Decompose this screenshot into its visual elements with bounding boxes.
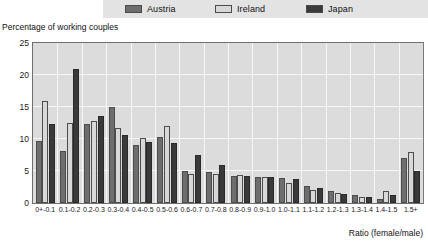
bar-group — [109, 43, 128, 203]
bar-japan-6 — [195, 155, 201, 203]
bar-japan-8 — [244, 176, 250, 203]
gridline-x-3 — [106, 43, 107, 203]
gridline-x-11 — [301, 43, 302, 203]
gridline-x-13 — [350, 43, 351, 203]
bar-austria-7 — [206, 172, 212, 203]
bar-group — [304, 43, 323, 203]
bar-austria-1 — [60, 151, 66, 203]
x-tick-label-15: 1.5+ — [399, 206, 423, 214]
bar-austria-12 — [328, 191, 334, 203]
x-axis-title: Ratio (female/male) — [349, 228, 423, 238]
x-tick-label-3: 0.3-0.4 — [106, 206, 130, 214]
gridline-x-10 — [277, 43, 278, 203]
x-tick-label-2: 0.2-0.3 — [82, 206, 106, 214]
legend-swatch-austria — [125, 5, 142, 13]
bar-ireland-11 — [310, 190, 316, 203]
x-tick-label-12: 1.2-1.3 — [326, 206, 350, 214]
x-tick-label-7: 0.7-0.8 — [204, 206, 228, 214]
bar-ireland-3 — [115, 128, 121, 203]
bar-group — [133, 43, 152, 203]
bar-japan-4 — [146, 142, 152, 203]
y-tick-label-10: 10 — [3, 135, 29, 144]
bar-japan-14 — [390, 195, 396, 203]
gridline-x-7 — [204, 43, 205, 203]
x-axis-line — [32, 203, 424, 204]
bar-austria-15 — [401, 158, 407, 203]
gridline-x-4 — [131, 43, 132, 203]
bar-group — [182, 43, 201, 203]
bar-austria-3 — [109, 107, 115, 203]
bar-group — [231, 43, 250, 203]
bar-ireland-10 — [286, 183, 292, 203]
bar-ireland-8 — [237, 175, 243, 203]
bar-japan-10 — [293, 179, 299, 203]
plot-top-rule — [33, 42, 424, 43]
gridline-x-12 — [326, 43, 327, 203]
legend-label-austria: Austria — [147, 5, 176, 14]
bar-group — [401, 43, 420, 203]
bar-austria-6 — [182, 171, 188, 203]
bar-group — [157, 43, 176, 203]
x-axis-ticks: 0+-0.10.1-0.20.2-0.30.3-0.40.4-0.50.5-0.… — [33, 206, 423, 218]
bar-ireland-1 — [67, 123, 73, 203]
y-tick-label-25: 25 — [3, 39, 29, 48]
bar-group — [36, 43, 55, 203]
legend-label-ireland: Ireland — [237, 5, 265, 14]
x-tick-label-14: 1.4-1.5 — [374, 206, 398, 214]
x-tick-label-8: 0.8-0.9 — [228, 206, 252, 214]
bar-ireland-2 — [91, 121, 97, 203]
bar-japan-15 — [414, 171, 420, 203]
gridline-x-9 — [252, 43, 253, 203]
gridline-x-8 — [228, 43, 229, 203]
gridline-x-2 — [82, 43, 83, 203]
x-tick-label-13: 1.3-1.4 — [350, 206, 374, 214]
bar-group — [255, 43, 274, 203]
bar-japan-3 — [122, 135, 128, 203]
bar-austria-2 — [84, 124, 90, 203]
bar-ireland-14 — [383, 191, 389, 203]
x-tick-label-6: 0.6-0.7 — [179, 206, 203, 214]
bar-austria-4 — [133, 145, 139, 203]
legend-label-japan: Japan — [328, 5, 353, 14]
y-axis-ticks: 0510152025 — [0, 43, 29, 203]
bar-japan-9 — [268, 177, 274, 203]
bar-group — [206, 43, 225, 203]
bar-ireland-15 — [408, 152, 414, 203]
bar-group — [352, 43, 371, 203]
bar-japan-2 — [98, 116, 104, 203]
y-tick-label-0: 0 — [3, 199, 29, 208]
bar-ireland-9 — [262, 177, 268, 203]
gridline-x-1 — [57, 43, 58, 203]
plot-area — [33, 43, 424, 203]
y-tick-label-20: 20 — [3, 71, 29, 80]
bar-ireland-0 — [42, 101, 48, 203]
bar-ireland-6 — [188, 174, 194, 203]
bar-austria-8 — [231, 176, 237, 203]
x-tick-label-10: 1.0-1.1 — [277, 206, 301, 214]
y-tick-label-15: 15 — [3, 103, 29, 112]
bar-austria-5 — [157, 137, 163, 203]
chart-figure: Austria Ireland Japan Percentage of work… — [0, 0, 428, 244]
bar-japan-5 — [171, 143, 177, 203]
legend-item-austria: Austria — [125, 0, 176, 18]
chart-legend: Austria Ireland Japan — [103, 0, 428, 18]
x-tick-label-4: 0.4-0.5 — [131, 206, 155, 214]
legend-swatch-japan — [306, 5, 323, 13]
y-tick-label-5: 5 — [3, 167, 29, 176]
x-tick-label-5: 0.5-0.6 — [155, 206, 179, 214]
bar-ireland-5 — [164, 126, 170, 203]
bar-group — [84, 43, 103, 203]
bar-austria-0 — [36, 141, 42, 203]
bar-japan-7 — [219, 165, 225, 203]
bar-ireland-7 — [213, 174, 219, 203]
legend-item-japan: Japan — [306, 0, 353, 18]
gridline-x-15 — [399, 43, 400, 203]
gridline-x-14 — [374, 43, 375, 203]
bar-japan-0 — [49, 124, 55, 203]
bar-group — [328, 43, 347, 203]
bar-group — [279, 43, 298, 203]
bar-japan-1 — [73, 69, 79, 203]
bar-ireland-4 — [140, 138, 146, 203]
bar-austria-9 — [255, 177, 261, 203]
bar-austria-13 — [352, 195, 358, 203]
